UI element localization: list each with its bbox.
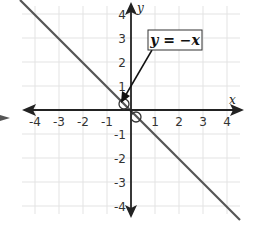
y-tick: -4 (114, 200, 126, 214)
y-tick: -1 (114, 128, 126, 142)
y-tick: -2 (114, 152, 126, 166)
coordinate-plane: y = −x y x -4 -3 -2 -1 1 2 3 4 4 3 2 1 -… (0, 0, 254, 238)
x-axis-label: x (229, 93, 236, 107)
x-tick: 2 (175, 115, 183, 129)
y-tick: 1 (118, 80, 126, 94)
x-tick: -1 (101, 115, 113, 129)
equation-label: y = −x (149, 32, 200, 48)
x-tick: -3 (53, 115, 65, 129)
callout-leader (124, 50, 152, 98)
y-tick: 2 (118, 56, 126, 70)
x-tick: 4 (223, 115, 231, 129)
x-tick: 3 (199, 115, 207, 129)
x-tick: 1 (151, 115, 159, 129)
y-tick: -3 (114, 176, 126, 190)
graph-figure: y = −x y x -4 -3 -2 -1 1 2 3 4 4 3 2 1 -… (0, 0, 254, 238)
y-tick: 3 (118, 32, 126, 46)
y-tick: 4 (118, 8, 126, 22)
x-tick: -4 (29, 115, 41, 129)
pointer-arrow-icon (0, 115, 10, 121)
y-axis-label: y (136, 1, 144, 15)
x-tick: -2 (77, 115, 89, 129)
